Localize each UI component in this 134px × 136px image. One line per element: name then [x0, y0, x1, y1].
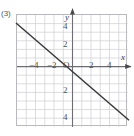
- x-axis-label: x: [121, 53, 125, 62]
- origin-label: O: [63, 61, 70, 70]
- graph-figure: (3): [0, 0, 134, 136]
- y-axis-arrow: [70, 8, 75, 14]
- x-tick-minus2: −2: [47, 61, 57, 70]
- x-tick-2: 2: [89, 61, 94, 70]
- line-graph: [16, 23, 129, 120]
- y-axis-label: y: [65, 13, 69, 22]
- y-tick-minus2: 2: [63, 86, 68, 95]
- x-tick-4: 4: [107, 61, 112, 70]
- x-tick-minus4: −4: [29, 61, 39, 70]
- y-tick-4: 4: [63, 22, 68, 31]
- item-number-label: (3): [1, 9, 11, 18]
- plotted-line-layer: [17, 15, 128, 127]
- y-tick-minus4: 4: [63, 113, 68, 122]
- y-tick-2: 2: [63, 40, 68, 49]
- coordinate-plane: [16, 14, 127, 126]
